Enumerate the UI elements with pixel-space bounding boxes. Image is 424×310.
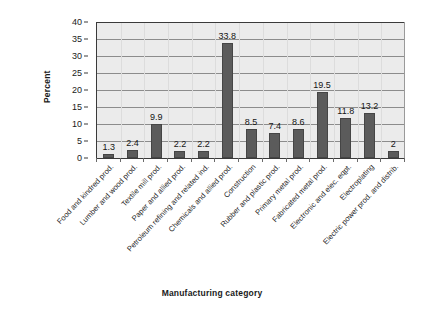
plot-area: 1.32.49.92.22.233.88.57.48.619.511.813.2… [96, 22, 405, 159]
bar [340, 118, 351, 158]
bar [127, 150, 138, 158]
bar [388, 151, 399, 158]
y-axis-tick-mark [84, 141, 88, 142]
y-axis-tick-mark [84, 90, 88, 91]
bar-value-label: 2 [391, 140, 396, 149]
bar-value-label: 8.6 [292, 118, 305, 127]
y-axis-tick-label: 25 [72, 69, 82, 78]
bar-value-label: 2.2 [174, 140, 187, 149]
bar-value-label: 33.8 [219, 32, 237, 41]
bar [198, 151, 209, 158]
bar [364, 113, 375, 158]
bar-value-label: 8.5 [245, 118, 258, 127]
bar [269, 133, 280, 158]
bar-value-label: 2.2 [197, 140, 210, 149]
y-axis-tick-label: 5 [77, 137, 82, 146]
bars-container: 1.32.49.92.22.233.88.57.48.619.511.813.2… [97, 22, 405, 158]
bar-chart: Percent 0510152025303540 1.32.49.92.22.2… [0, 0, 424, 310]
y-axis-tick-label: 35 [72, 35, 82, 44]
bar-value-label: 2.4 [126, 139, 139, 148]
y-axis-tick-label: 10 [72, 120, 82, 129]
x-axis-category-labels: Food and kindred prod.Lumber and wood pr… [0, 160, 424, 280]
bar [293, 129, 304, 158]
y-axis-tick-label: 15 [72, 103, 82, 112]
bar-value-label: 9.9 [150, 113, 163, 122]
bar [222, 43, 233, 158]
y-axis-tick-label: 40 [72, 18, 82, 27]
bar-value-label: 19.5 [313, 81, 331, 90]
y-axis-tick-label: 30 [72, 52, 82, 61]
bar [174, 151, 185, 158]
y-axis-tick-mark [84, 124, 88, 125]
y-axis-tick-mark [84, 56, 88, 57]
bar [317, 92, 328, 158]
y-axis-tick-mark [84, 39, 88, 40]
y-axis-tick-mark [84, 22, 88, 23]
bar-value-label: 11.8 [337, 107, 354, 116]
bar-value-label: 1.3 [103, 143, 116, 152]
bar-value-label: 7.4 [268, 122, 281, 131]
y-axis-tick-labels: 0510152025303540 [56, 22, 88, 158]
y-axis-tick-mark [84, 73, 88, 74]
x-axis-title: Manufacturing category [0, 288, 424, 298]
y-axis-tick-label: 20 [72, 86, 82, 95]
y-axis-tick-mark [84, 107, 88, 108]
bar-value-label: 13.2 [361, 102, 379, 111]
bar [246, 129, 257, 158]
y-axis-title: Percent [40, 52, 54, 122]
y-axis-tick-mark [84, 158, 88, 159]
bar [151, 124, 162, 158]
